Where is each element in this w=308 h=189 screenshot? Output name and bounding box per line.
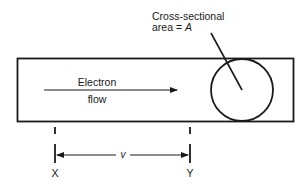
point-label-y: Y — [186, 167, 193, 179]
electron-flow-diagram: Cross-sectional area = A Electron flow v… — [0, 0, 308, 189]
callout-label-2: area = A — [152, 21, 192, 33]
area-variable: A — [184, 21, 192, 33]
distance-label-v: v — [121, 149, 127, 160]
flow-label-line-2: flow — [88, 93, 107, 105]
callout-line-2-prefix: area = — [152, 21, 185, 33]
point-label-x: X — [51, 167, 58, 179]
flow-label-line-1: Electron — [78, 76, 117, 88]
callout-leader-line — [211, 33, 242, 90]
